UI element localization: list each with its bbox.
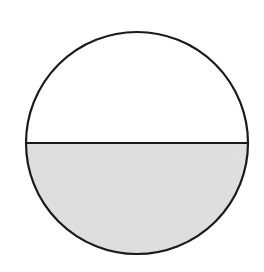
fraction-circle-diagram xyxy=(0,0,264,272)
unshaded-top-half xyxy=(26,32,248,143)
shaded-bottom-half xyxy=(26,143,248,254)
